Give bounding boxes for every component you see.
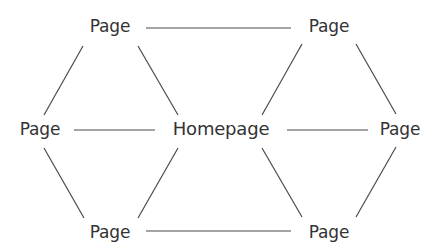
site-structure-diagram: Page Page Page Homepage Page Page Page: [0, 0, 442, 252]
edge-top-left-to-home: [138, 46, 178, 115]
node-homepage: Homepage: [173, 119, 270, 139]
edge-top-left-to-left: [44, 46, 83, 115]
edge-home-to-bottom-right: [262, 148, 302, 217]
edge-top-right-to-right: [356, 44, 396, 114]
node-page-right: Page: [380, 119, 420, 139]
edge-right-to-bottom-right: [356, 147, 396, 217]
node-page-top-left: Page: [90, 16, 130, 36]
node-page-top-right: Page: [309, 16, 349, 36]
node-page-left: Page: [20, 119, 60, 139]
edge-left-to-bottom-left: [44, 148, 84, 218]
edge-home-to-bottom-left: [138, 148, 178, 218]
node-page-bottom-right: Page: [309, 222, 349, 242]
node-page-bottom-left: Page: [90, 222, 130, 242]
edge-top-right-to-home: [262, 44, 302, 115]
